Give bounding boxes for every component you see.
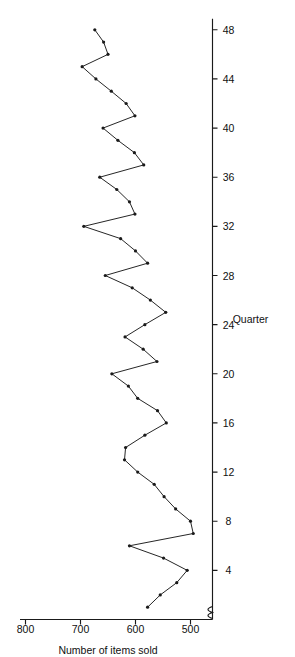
quarter-tick-label: 48 [222, 23, 234, 35]
quarter-tick-label: 28 [222, 269, 234, 281]
value-tick-label: 500 [181, 622, 199, 634]
data-point [146, 605, 149, 608]
data-point [93, 28, 96, 31]
quarter-tick-label: 16 [222, 416, 234, 428]
data-point [101, 126, 104, 129]
data-point [82, 224, 85, 227]
value-tick-label: 600 [126, 622, 144, 634]
rotated-figure-container: 5006007008004812162024283236404448Quarte… [0, 0, 295, 657]
data-point [124, 445, 127, 448]
data-point [110, 372, 113, 375]
axes-layer [20, 18, 218, 624]
quarter-tick-label: 36 [222, 171, 234, 183]
line-chart-svg: 5006007008004812162024283236404448Quarte… [0, 0, 295, 657]
data-point [158, 593, 161, 596]
data-line [82, 29, 193, 606]
quarter-tick-label: 20 [222, 367, 234, 379]
quarter-tick-label: 44 [222, 72, 234, 84]
data-point [98, 175, 101, 178]
data-point [123, 335, 126, 338]
axis-break-icon [208, 606, 213, 618]
value-tick-label: 700 [71, 622, 89, 634]
x-axis-title: Quarter [232, 312, 268, 324]
chart-page: 5006007008004812162024283236404448Quarte… [0, 0, 295, 657]
y-axis-title: Number of items sold [58, 643, 157, 655]
quarter-tick-label: 40 [222, 122, 234, 134]
data-point [127, 544, 130, 547]
data-point [103, 273, 106, 276]
quarter-tick-label: 32 [222, 220, 234, 232]
series-layer [80, 28, 194, 609]
quarter-tick-label: 8 [225, 515, 231, 527]
axis-labels-layer: 5006007008004812162024283236404448Quarte… [16, 23, 268, 655]
quarter-tick-label: 4 [225, 564, 231, 576]
quarter-tick-label: 12 [222, 466, 234, 478]
value-tick-label: 800 [16, 622, 34, 634]
data-point [80, 65, 83, 68]
